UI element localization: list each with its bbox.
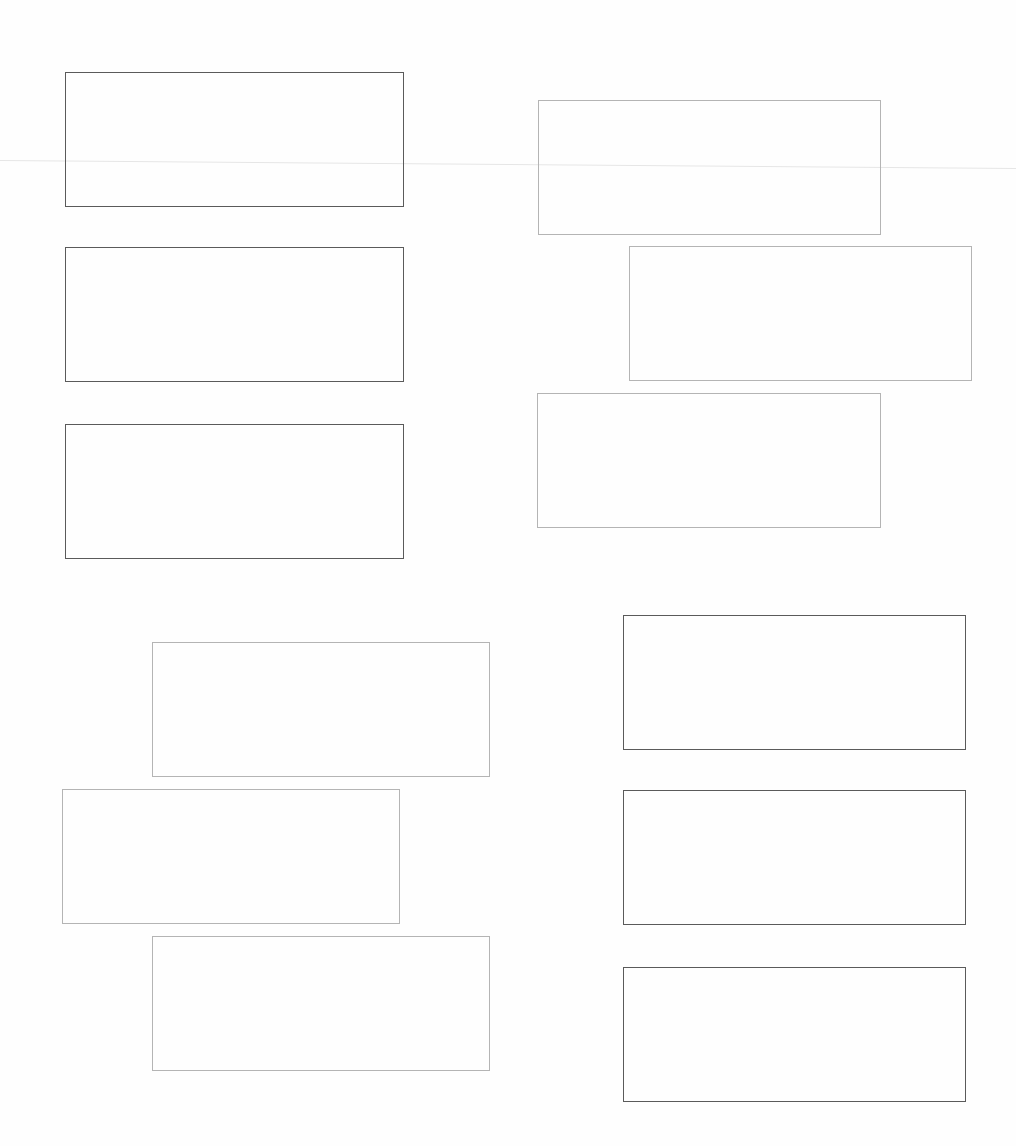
empty-box-1 (65, 72, 404, 207)
empty-box-9 (152, 936, 490, 1071)
empty-box-5 (65, 424, 404, 559)
empty-box-3 (65, 247, 404, 382)
empty-box-10 (623, 615, 966, 750)
empty-box-2 (538, 100, 881, 235)
empty-box-6 (537, 393, 881, 528)
empty-box-8 (62, 789, 400, 924)
empty-box-4 (629, 246, 972, 381)
empty-box-7 (152, 642, 490, 777)
empty-box-12 (623, 967, 966, 1102)
empty-box-11 (623, 790, 966, 925)
